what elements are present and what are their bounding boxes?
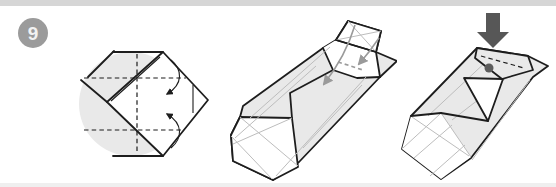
- step-number-badge: 9: [18, 18, 48, 48]
- diagram-stage-3: [398, 8, 556, 184]
- model-body: [402, 48, 548, 179]
- diagram-stage-2: [225, 8, 397, 186]
- step-number: 9: [28, 24, 39, 43]
- push-down-arrow: [477, 13, 509, 48]
- bottom-divider: [0, 183, 556, 187]
- origami-step-panel: 9: [0, 0, 556, 187]
- model-body: [231, 21, 397, 180]
- diagram-stage-1: [70, 42, 220, 167]
- top-divider: [0, 0, 556, 6]
- reference-dot: [485, 64, 494, 73]
